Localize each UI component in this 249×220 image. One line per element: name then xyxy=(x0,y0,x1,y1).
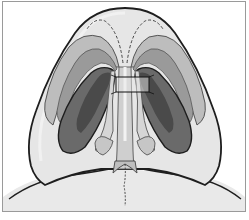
nose-base-illustration xyxy=(3,2,245,211)
transdomal-suture xyxy=(111,75,154,94)
illustration-frame: Basal view of nose showing lower lateral… xyxy=(2,1,246,212)
